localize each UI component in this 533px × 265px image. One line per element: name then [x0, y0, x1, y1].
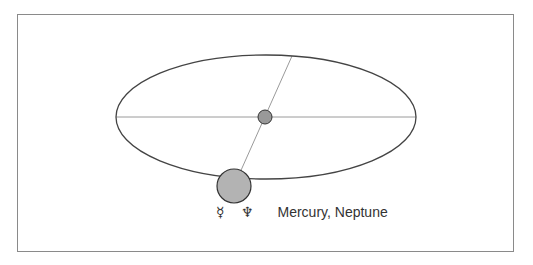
planet-names-label: Mercury, Neptune	[277, 204, 387, 220]
planet-icon	[217, 169, 251, 203]
orbit-diagram	[0, 0, 533, 265]
planet-symbols-icon: ☿ ♆	[216, 204, 260, 220]
sun-icon	[258, 110, 272, 124]
planet-caption: ☿ ♆ Mercury, Neptune	[216, 204, 388, 220]
